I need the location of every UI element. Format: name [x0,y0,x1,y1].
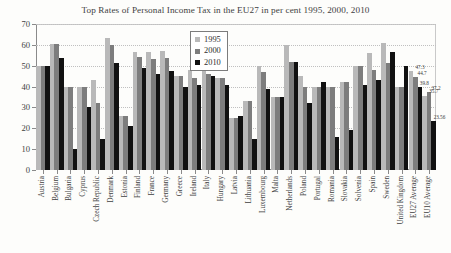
x-axis-label-cell: Netherlands [284,176,298,252]
x-axis-label-cell: Cyprus [77,176,91,252]
bar-group [36,24,50,170]
x-axis-category-label: Belgium [53,176,60,201]
x-axis-category-label: Ireland [191,176,198,196]
y-axis-tick-label: 70 [4,19,30,29]
bar-value-label: 23.56 [434,115,446,120]
x-axis-category-label: Italy [205,176,212,189]
y-axis-tick-label: 10 [4,144,30,154]
x-axis-label-cell: Slovakia [340,176,354,252]
chart-legend[interactable]: 1995 2000 2010 [190,31,228,71]
x-axis-tick [257,170,271,174]
x-axis-category-label: Denmark [108,176,115,203]
x-axis-tick [229,170,243,174]
bar-group [133,24,147,170]
legend-label-1995: 1995 [204,34,221,45]
legend-item-2000: 2000 [195,45,221,56]
legend-item-1995: 1995 [195,34,221,45]
x-axis-tick [174,170,188,174]
x-axis-label-cell: Germany [160,176,174,252]
x-axis-label-cell: Hungary [215,176,229,252]
bar-group [229,24,243,170]
x-axis-label-cell: Denmark [105,176,119,252]
x-axis-ticks [36,170,436,174]
x-axis-category-label: Latvia [232,176,239,194]
x-axis-tick [202,170,216,174]
x-axis-category-label: France [150,176,157,196]
bar-group [50,24,64,170]
x-axis-category-label: Greece [177,176,184,196]
x-axis-category-label: Germany [163,176,170,203]
legend-swatch-icon-2010 [195,60,200,65]
x-axis-tick [422,170,436,174]
x-axis-label-cell: France [146,176,160,252]
bar-group [298,24,312,170]
x-axis-tick [243,170,257,174]
legend-swatch-icon-1995 [195,37,200,42]
x-axis-tick [36,170,50,174]
x-axis-label-cell: Luxembourg [257,176,271,252]
bar [431,121,436,170]
bar-group [312,24,326,170]
bar-group [353,24,367,170]
x-axis-category-label: Portugal [315,176,322,200]
x-axis-tick [326,170,340,174]
x-axis-tick [271,170,285,174]
x-axis-label-cell: United Kingdom [395,176,409,252]
chart-container: Top Rates of Personal Income Tax in the … [0,0,451,253]
x-axis-category-label: Austria [39,176,46,197]
x-axis-category-label: Netherlands [288,176,295,211]
bar-group [284,24,298,170]
x-axis-label-cell: Czech Republic [91,176,105,252]
x-axis-label-cell: Bulgaria [64,176,78,252]
x-axis-label-cell: Malta [271,176,285,252]
x-axis-label-cell: Belgium [50,176,64,252]
bar-group [243,24,257,170]
x-axis-labels: AustriaBelgiumBulgariaCyprusCzech Republ… [36,176,436,252]
bar-group [326,24,340,170]
bar-groups: 47.344.739.835.737.223.56 [36,24,436,170]
bar-value-label: 37.2 [431,86,440,91]
x-axis-tick [395,170,409,174]
x-axis-category-label: Lithuania [246,176,253,204]
bar-group [395,24,409,170]
x-axis-category-label: EU27 Average [412,176,419,218]
x-axis-label-cell: Spain [367,176,381,252]
y-axis-tick-label: 60 [4,40,30,50]
y-axis-tick-label: 30 [4,102,30,112]
legend-label-2000: 2000 [204,45,221,56]
x-axis-category-label: Slovakia [343,176,350,201]
x-axis-tick [188,170,202,174]
bar-group [119,24,133,170]
x-axis-tick [133,170,147,174]
x-axis-label-cell: Ireland [188,176,202,252]
x-axis-tick [146,170,160,174]
x-axis-category-label: Cyprus [81,176,88,197]
bar-group: 35.737.223.56 [422,24,436,170]
bar-group: 47.344.739.8 [409,24,423,170]
x-axis-label-cell: Poland [298,176,312,252]
x-axis-label-cell: Solvenia [353,176,367,252]
x-axis-tick [298,170,312,174]
x-axis-tick [353,170,367,174]
bar-group [174,24,188,170]
x-axis-tick [215,170,229,174]
x-axis-label-cell: EU10 Average [422,176,436,252]
x-axis-label-cell: EU27 Average [409,176,423,252]
x-axis-category-label: Malta [274,176,281,193]
x-axis-tick [340,170,354,174]
bar-group [271,24,285,170]
x-axis-label-cell: Latvia [229,176,243,252]
x-axis-category-label: Czech Republic [94,176,101,222]
x-axis-tick [50,170,64,174]
x-axis-tick [381,170,395,174]
legend-label-2010: 2010 [204,57,221,68]
y-axis-tick-label: 40 [4,82,30,92]
bar-group [257,24,271,170]
x-axis-tick [91,170,105,174]
x-axis-tick [409,170,423,174]
x-axis-category-label: United Kingdom [398,176,405,225]
x-axis-tick [77,170,91,174]
x-axis-label-cell: Finland [133,176,147,252]
x-axis-tick [367,170,381,174]
x-axis-tick [119,170,133,174]
